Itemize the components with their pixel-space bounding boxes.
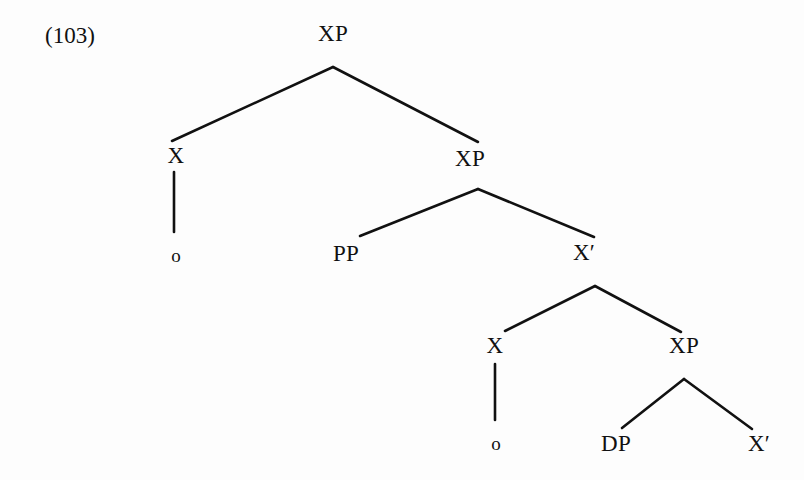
tree-branches (0, 0, 804, 480)
branch-xp-lower-to-dp-bottom (622, 379, 684, 428)
branch-xp-mid-to-pp-mid (360, 189, 478, 236)
branch-lines (172, 67, 752, 429)
node-xp-top: XP (318, 22, 348, 45)
branch-xp-top-to-x-left (172, 67, 333, 141)
node-o-left: o (171, 246, 181, 265)
branch-xp-lower-to-xbar-bottom (684, 379, 752, 429)
branch-xbar-mid-to-x-lower (505, 286, 595, 331)
node-xbar-mid: X′ (573, 241, 595, 264)
node-x-left: X (168, 144, 185, 167)
figure-canvas: (103) XPXoXPPPX′XoXPDPX′ (0, 0, 804, 480)
node-dp-bottom: DP (601, 432, 631, 455)
node-xbar-bottom: X′ (748, 432, 770, 455)
branch-xp-mid-to-xbar-mid (478, 189, 594, 237)
node-x-lower: X (487, 334, 504, 357)
node-xp-lower: XP (669, 334, 699, 357)
node-pp-mid: PP (333, 242, 359, 265)
node-o-lower: o (491, 434, 501, 453)
node-xp-mid: XP (455, 147, 485, 170)
branch-xp-top-to-xp-mid (333, 67, 478, 142)
branch-xbar-mid-to-xp-lower (595, 286, 681, 332)
